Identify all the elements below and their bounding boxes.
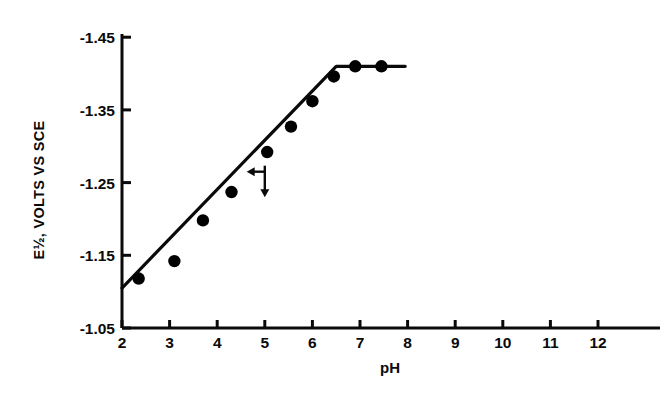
data-point (261, 146, 273, 158)
x-tick-label: 2 (118, 334, 127, 351)
x-tick-label: 12 (589, 334, 606, 351)
annotation-left-arrow-head (247, 167, 255, 176)
x-tick-label: 4 (213, 334, 222, 351)
x-tick-label-group: 23456789101112 (118, 334, 607, 351)
y-tick-label: -1.25 (80, 175, 116, 192)
y-tick-label: -1.45 (80, 29, 116, 46)
x-tick-label: 3 (165, 334, 174, 351)
pka-marker-annotation (247, 166, 270, 197)
data-point (375, 60, 387, 72)
y-axis-title: E½, VOLTS VS SCE (31, 120, 47, 259)
x-tick-label: 8 (403, 334, 412, 351)
axes-group (122, 34, 660, 328)
x-tick-label: 10 (494, 334, 511, 351)
y-tick-label: -1.15 (80, 247, 116, 264)
x-axis-title: pH (380, 359, 400, 376)
chart-figure: -1.05-1.15-1.25-1.35-1.45 23456789101112… (0, 0, 667, 396)
y-tick-label: -1.05 (80, 320, 116, 337)
data-point (306, 95, 318, 107)
data-point (197, 214, 209, 226)
data-point (132, 272, 144, 284)
data-point (285, 120, 297, 132)
y-tick-label: -1.35 (80, 102, 116, 119)
x-tick-label: 11 (542, 334, 559, 351)
x-tick-label: 9 (451, 334, 460, 351)
data-point (168, 255, 180, 267)
y-tick-label-group: -1.05-1.15-1.25-1.35-1.45 (80, 29, 116, 337)
annotation-down-arrow-head (260, 189, 269, 197)
data-point (225, 186, 237, 198)
data-point (349, 60, 361, 72)
x-tick-label: 7 (356, 334, 365, 351)
data-point (328, 70, 340, 82)
x-tick-label: 6 (308, 334, 317, 351)
x-tick-label: 5 (260, 334, 269, 351)
plot-canvas: -1.05-1.15-1.25-1.35-1.45 23456789101112… (0, 0, 667, 396)
